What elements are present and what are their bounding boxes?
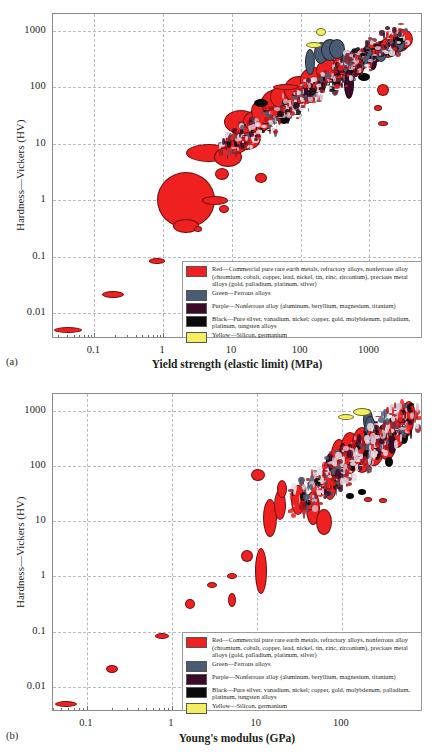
y-tick-mark <box>52 640 53 641</box>
y-tick-mark <box>52 526 53 527</box>
y-tick-mark <box>52 423 53 424</box>
y-tick-mark <box>52 699 53 700</box>
data-marker <box>235 152 237 156</box>
y-tick-mark <box>52 433 53 434</box>
data-marker <box>306 42 322 48</box>
x-tick-mark <box>146 708 147 711</box>
y-tick-mark <box>52 471 53 472</box>
data-marker <box>149 258 165 264</box>
y-tick-label-text: 1000 <box>0 405 46 415</box>
data-marker <box>347 450 353 457</box>
y-tick-label: 1000 <box>0 30 46 40</box>
data-marker <box>227 142 231 148</box>
x-tick-mark <box>127 335 128 338</box>
y-tick-label: 10 <box>0 520 46 530</box>
y-tick-mark <box>52 257 53 258</box>
x-tick-mark <box>74 335 75 338</box>
data-marker <box>272 128 274 131</box>
y-tick-mark <box>52 482 53 483</box>
panel-label-b: (b) <box>6 730 18 741</box>
y-tick-label: 100 <box>0 86 46 96</box>
y-tick-mark <box>52 440 53 441</box>
data-marker <box>338 414 354 420</box>
x-tick-mark <box>88 335 89 338</box>
y-tick-mark <box>52 166 53 167</box>
data-marker <box>340 58 342 63</box>
y-tick-mark <box>52 149 53 150</box>
y-axis-title-a: Hardness—Vickers (HV) <box>14 120 26 231</box>
y-tick-label: 100 <box>0 465 46 475</box>
y-tick-mark <box>52 582 53 583</box>
data-marker <box>185 599 195 609</box>
y-tick-mark <box>52 560 53 561</box>
legend-swatch-red <box>186 637 207 648</box>
legend-entry-label: Green—Ferrous alloys <box>212 289 417 297</box>
y-tick-mark <box>52 524 53 525</box>
y-tick-mark <box>52 660 53 661</box>
legend-entry: Yellow—Silicon, germanium <box>186 331 417 343</box>
gridline-vertical <box>163 14 164 337</box>
x-tick-mark <box>94 333 95 337</box>
data-marker <box>296 117 299 119</box>
legend-entry: Black—Pure silver, vanadium, nickel; cop… <box>186 686 417 701</box>
y-tick-mark <box>52 266 53 267</box>
y-tick-mark <box>52 579 53 580</box>
y-tick-mark <box>52 495 53 496</box>
data-marker <box>388 42 389 46</box>
y-tick-mark <box>52 478 53 479</box>
y-tick-mark <box>52 156 53 157</box>
data-marker <box>265 111 269 117</box>
legend-swatch-purple <box>186 674 207 685</box>
data-marker <box>219 205 229 213</box>
y-tick-mark <box>52 336 53 337</box>
x-tick-mark <box>61 708 62 711</box>
data-marker <box>394 440 398 449</box>
x-tick-mark <box>168 708 169 711</box>
data-marker <box>255 548 267 594</box>
y-tick-mark <box>52 411 53 412</box>
data-marker <box>336 481 339 485</box>
y-tick-mark <box>52 589 53 590</box>
x-tick-label: 0.1 <box>56 717 116 728</box>
y-tick-mark <box>52 637 53 638</box>
y-tick-mark <box>52 44 53 45</box>
legend-swatch-red <box>186 266 207 277</box>
legend-entry-label: Black—Pure silver, vanadium, nickel; cop… <box>212 315 417 330</box>
data-marker <box>283 99 288 104</box>
data-marker <box>249 131 254 137</box>
x-tick-mark <box>157 335 158 338</box>
y-tick-mark <box>52 394 53 395</box>
y-tick-mark <box>52 530 53 531</box>
data-marker <box>377 60 379 62</box>
data-marker <box>404 28 408 32</box>
x-tick-label: 100 <box>270 344 330 355</box>
y-tick-mark <box>52 670 53 671</box>
x-tick-mark <box>91 335 92 338</box>
x-tick-mark <box>68 708 69 711</box>
data-marker <box>367 464 369 474</box>
legend-entry-label: Red—Commercial pure rare earth metals, r… <box>212 636 417 659</box>
y-tick-mark <box>52 474 53 475</box>
y-tick-mark <box>52 87 53 88</box>
y-tick-mark <box>52 615 53 616</box>
y-tick-mark <box>52 144 53 145</box>
y-tick-mark <box>52 240 53 241</box>
x-tick-mark <box>138 708 139 711</box>
data-marker <box>408 420 413 424</box>
x-tick-mark <box>160 335 161 338</box>
y-tick-mark <box>52 504 53 505</box>
data-marker <box>333 70 335 73</box>
data-marker <box>331 73 334 76</box>
y-tick-mark <box>52 279 53 280</box>
data-marker <box>401 35 404 37</box>
y-tick-mark <box>52 533 53 534</box>
data-marker <box>314 491 316 499</box>
y-tick-mark <box>52 449 53 450</box>
y-tick-mark <box>52 703 53 704</box>
x-axis-title-b: Young's modulus (GPa) <box>52 732 422 744</box>
data-marker <box>379 498 387 503</box>
x-tick-mark <box>164 708 165 711</box>
data-marker <box>408 409 414 413</box>
data-marker <box>255 173 267 183</box>
y-tick-mark <box>52 632 53 633</box>
